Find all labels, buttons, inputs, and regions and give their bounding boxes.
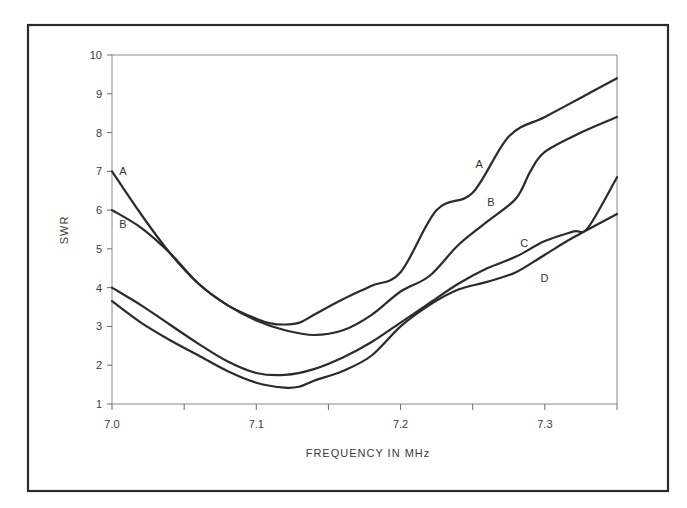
plot-area-border: [112, 55, 617, 404]
x-tick-label: 7.0: [104, 418, 119, 430]
chart-frame: [28, 25, 668, 491]
x-tick-label: 7.3: [537, 418, 552, 430]
curve-label-c: C: [520, 237, 528, 249]
curves: [112, 78, 617, 388]
y-tick-label: 8: [96, 127, 102, 139]
axes: 123456789107.07.17.27.3: [90, 49, 617, 430]
curve-label-a: A: [119, 165, 127, 177]
y-tick-label: 6: [96, 204, 102, 216]
y-tick-label: 1: [96, 398, 102, 410]
curve-label-b: B: [487, 196, 494, 208]
x-tick-label: 7.2: [393, 418, 408, 430]
curve-d: [112, 214, 617, 388]
curve-b: [112, 117, 617, 335]
swr-chart: 123456789107.07.17.27.3 AABBCD SWR FREQU…: [0, 0, 687, 508]
x-axis-label: FREQUENCY IN MHz: [306, 447, 431, 459]
y-axis-label: SWR: [58, 216, 70, 245]
curve-label-b: B: [119, 218, 126, 230]
y-tick-label: 7: [96, 165, 102, 177]
y-tick-label: 9: [96, 88, 102, 100]
curve-label-a: A: [476, 158, 484, 170]
y-tick-label: 2: [96, 359, 102, 371]
y-tick-label: 5: [96, 243, 102, 255]
y-tick-label: 4: [96, 282, 102, 294]
x-tick-label: 7.1: [249, 418, 264, 430]
curve-a: [112, 78, 617, 324]
curve-label-d: D: [541, 272, 549, 284]
y-tick-label: 10: [90, 49, 102, 61]
y-tick-label: 3: [96, 320, 102, 332]
